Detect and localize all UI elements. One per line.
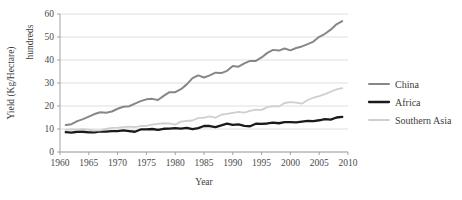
y-tick-label: 30 — [45, 78, 55, 88]
x-tick-label: 1980 — [166, 158, 185, 168]
legend-label-southern-asia: Southern Asia — [395, 115, 452, 126]
y-tick-label: 50 — [45, 32, 55, 42]
legend-label-africa: Africa — [395, 97, 421, 108]
x-tick-label: 2005 — [310, 158, 329, 168]
legend-label-china: China — [395, 79, 419, 90]
series-line-africa — [66, 117, 342, 133]
y-axis-title-secondary: hundreds — [25, 24, 35, 59]
x-tick-label: 1990 — [223, 158, 242, 168]
x-tick-label: 1985 — [195, 158, 214, 168]
x-tick-label: 2010 — [339, 158, 358, 168]
y-tick-label: 10 — [45, 124, 55, 134]
x-tick-label: 1995 — [252, 158, 271, 168]
y-axis-title: Yield (Kg/Hectare) — [6, 46, 17, 119]
yield-line-chart: 0102030405060196019651970197519801985199… — [0, 0, 462, 200]
y-tick-label: 40 — [45, 55, 55, 65]
y-tick-label: 60 — [45, 9, 55, 19]
x-axis-title: Year — [195, 177, 213, 187]
y-tick-label: 0 — [49, 147, 54, 157]
series-line-southern-asia — [66, 88, 342, 131]
series-group — [66, 21, 342, 133]
x-tick-label: 1960 — [51, 158, 70, 168]
legend: ChinaAfricaSouthern Asia — [369, 79, 452, 126]
x-tick-label: 1975 — [137, 158, 156, 168]
x-tick-label: 1965 — [79, 158, 98, 168]
y-axis-ticks: 0102030405060 — [45, 9, 61, 157]
y-tick-label: 20 — [45, 101, 55, 111]
chart-canvas: 0102030405060196019651970197519801985199… — [0, 0, 462, 200]
x-tick-label: 1970 — [108, 158, 127, 168]
x-axis-ticks: 1960196519701975198019851990199520002005… — [51, 152, 358, 168]
x-tick-label: 2000 — [281, 158, 300, 168]
